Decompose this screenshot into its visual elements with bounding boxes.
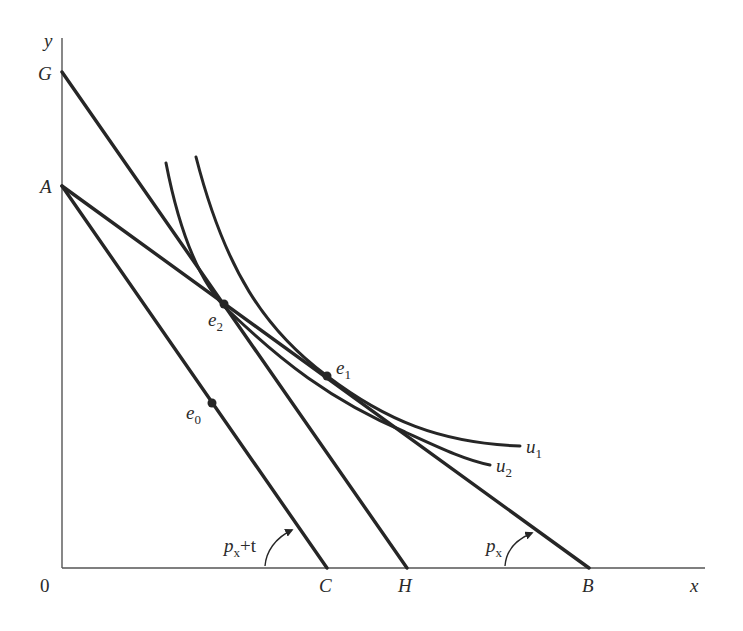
origin-label: 0	[40, 575, 50, 596]
slope-arrow-ab	[505, 533, 532, 566]
intercept-label-c: C	[319, 575, 332, 596]
point-label-e1: e1	[336, 357, 351, 382]
point-label-e0: e0	[186, 402, 201, 427]
curve-label-u2: u2	[496, 455, 512, 480]
curve-label-u1: u1	[526, 436, 542, 461]
intercept-label-a: A	[38, 176, 52, 197]
axes	[62, 38, 705, 568]
budget-line-gh	[62, 72, 407, 568]
slope-label-ac: px+t	[222, 535, 257, 560]
diagram-canvas: y x 0 G A C H B u1 u2 e0 e1 e2 px+t p	[0, 0, 743, 631]
y-axis-label: y	[42, 30, 53, 51]
intercept-label-h: H	[397, 575, 413, 596]
intercept-label-b: B	[582, 575, 594, 596]
slope-arrow-ac	[265, 530, 292, 566]
point-label-e2: e2	[208, 309, 223, 334]
point-e2	[220, 300, 229, 309]
x-axis-label: x	[689, 575, 699, 596]
intercept-label-g: G	[38, 63, 52, 84]
point-e0	[208, 399, 217, 408]
slope-label-ab: px	[484, 535, 503, 560]
point-e1	[323, 372, 332, 381]
budget-line-ac	[62, 186, 327, 568]
